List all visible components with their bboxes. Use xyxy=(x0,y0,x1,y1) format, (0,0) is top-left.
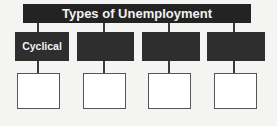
category-box-3 xyxy=(142,32,200,61)
connector-line xyxy=(103,23,105,32)
category-box-2 xyxy=(77,32,134,61)
category-box-cyclical: Cyclical xyxy=(15,32,69,61)
connector-line xyxy=(168,61,170,73)
category-box-4 xyxy=(207,32,265,61)
diagram-title: Types of Unemployment xyxy=(23,4,251,23)
answer-box-4 xyxy=(214,73,257,109)
connector-line xyxy=(168,23,170,32)
connector-line xyxy=(37,23,39,32)
connector-line xyxy=(233,61,235,73)
answer-box-2 xyxy=(83,73,126,109)
connector-line xyxy=(233,23,235,32)
answer-box-3 xyxy=(148,73,191,109)
answer-box-1 xyxy=(17,73,60,109)
connector-line xyxy=(37,61,39,73)
connector-line xyxy=(103,61,105,73)
